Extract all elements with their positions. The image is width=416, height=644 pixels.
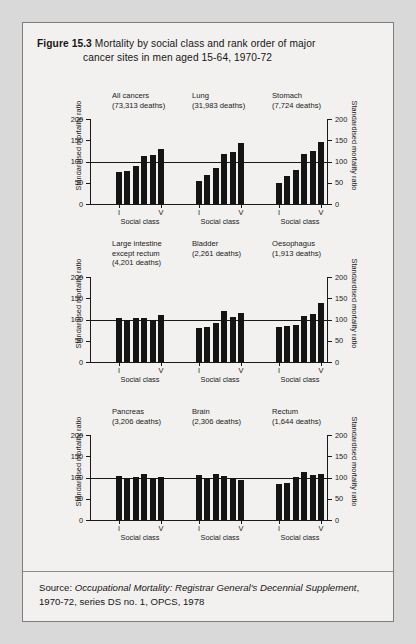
y-tick-right bbox=[328, 478, 332, 479]
panel-header: Lung(31,983 deaths) bbox=[192, 91, 266, 110]
bar bbox=[204, 175, 210, 204]
y-tick-label-left: 0 bbox=[57, 516, 83, 525]
bar-group bbox=[276, 277, 324, 362]
bar bbox=[318, 303, 324, 363]
bar bbox=[301, 472, 307, 520]
bar bbox=[116, 172, 122, 204]
bar bbox=[293, 170, 299, 204]
bar-group bbox=[196, 277, 244, 362]
bar bbox=[158, 477, 164, 520]
y-tick-right bbox=[328, 183, 332, 184]
x-axis-caption: Social class bbox=[183, 375, 257, 384]
bar-group bbox=[116, 119, 164, 204]
panel-header: Bladder(2,261 deaths) bbox=[192, 239, 266, 258]
bar bbox=[133, 166, 139, 204]
bar bbox=[213, 474, 219, 520]
bar bbox=[213, 168, 219, 204]
bar-group bbox=[196, 119, 244, 204]
panel-title: All cancers bbox=[112, 91, 186, 101]
panel-title: Brain bbox=[192, 407, 266, 417]
bar bbox=[230, 478, 236, 520]
bar-group bbox=[116, 277, 164, 362]
y-axis-label-right: Standardised mortality ratio bbox=[350, 256, 359, 352]
panel-deaths-count: (3,206 deaths) bbox=[112, 417, 186, 427]
figure-card: Figure 15.3 Mortality by social class an… bbox=[22, 22, 394, 622]
figure-title-line1: Mortality by social class and rank order… bbox=[95, 38, 316, 49]
y-tick-left bbox=[86, 341, 90, 342]
figure-page: Figure 15.3 Mortality by social class an… bbox=[0, 0, 416, 644]
y-tick-right bbox=[328, 362, 332, 363]
y-tick-label-left: 0 bbox=[57, 200, 83, 209]
y-tick-right bbox=[328, 499, 332, 500]
bar bbox=[230, 152, 236, 204]
bar bbox=[284, 176, 290, 204]
bar bbox=[141, 156, 147, 204]
bar-group bbox=[116, 435, 164, 520]
y-tick-right bbox=[328, 119, 332, 120]
x-axis-caption: Social class bbox=[263, 375, 337, 384]
bar bbox=[293, 477, 299, 520]
figure-caption: Figure 15.3 Mortality by social class an… bbox=[37, 37, 379, 65]
x-label-class-one: I bbox=[192, 208, 206, 217]
x-label-class-five: V bbox=[234, 208, 248, 217]
x-label-class-five: V bbox=[314, 366, 328, 375]
panel-deaths-count: (7,724 deaths) bbox=[272, 101, 346, 111]
x-label-class-one: I bbox=[112, 208, 126, 217]
plot-area-row-2: 005050100100150150200200Standardised mor… bbox=[90, 277, 328, 363]
chart-row-2: Large intestine except rectum(4,201 deat… bbox=[23, 237, 395, 389]
bar bbox=[301, 154, 307, 204]
plot-area-row-1: 005050100100150150200200Standardised mor… bbox=[90, 119, 328, 205]
y-tick-label-right: 0 bbox=[335, 200, 361, 209]
panel-title: Bladder bbox=[192, 239, 266, 249]
y-tick-right bbox=[328, 140, 332, 141]
figure-title-line2: cancer sites in men aged 15-64, 1970-72 bbox=[37, 51, 379, 65]
y-tick-left bbox=[86, 499, 90, 500]
x-axis-caption: Social class bbox=[103, 217, 177, 226]
bar bbox=[196, 181, 202, 204]
panel-deaths-count: (2,306 deaths) bbox=[192, 417, 266, 427]
panel-deaths-count: (2,261 deaths) bbox=[192, 249, 266, 259]
bar bbox=[284, 483, 290, 520]
panel-header: Brain(2,306 deaths) bbox=[192, 407, 266, 426]
bar bbox=[116, 318, 122, 362]
bar bbox=[150, 320, 156, 363]
y-axis-label-left: Standardised mortality ratio bbox=[74, 256, 83, 352]
x-label-class-one: I bbox=[112, 524, 126, 533]
figure-number: Figure 15.3 bbox=[37, 38, 92, 49]
bar bbox=[238, 143, 244, 204]
y-tick-right bbox=[328, 435, 332, 436]
bar bbox=[116, 476, 122, 520]
bar bbox=[133, 318, 139, 362]
panel-deaths-count: (4,201 deaths) bbox=[112, 258, 186, 268]
bar bbox=[196, 328, 202, 362]
bar bbox=[318, 142, 324, 204]
bar bbox=[310, 475, 316, 520]
bar bbox=[301, 316, 307, 362]
x-label-class-five: V bbox=[154, 524, 168, 533]
bar-group bbox=[276, 119, 324, 204]
y-axis-label-right: Standardised mortality ratio bbox=[350, 414, 359, 510]
plot-area-row-3: 005050100100150150200200Standardised mor… bbox=[90, 435, 328, 521]
x-axis-labels-row-3: IVSocial classIVSocial classIVSocial cla… bbox=[90, 521, 328, 545]
bar bbox=[124, 171, 130, 204]
y-tick-right bbox=[328, 277, 332, 278]
bar bbox=[150, 478, 156, 520]
x-label-class-one: I bbox=[272, 524, 286, 533]
panel-title: Oesophagus bbox=[272, 239, 346, 249]
bar bbox=[124, 320, 130, 363]
y-tick-right bbox=[328, 298, 332, 299]
bar bbox=[238, 480, 244, 520]
x-axis-caption: Social class bbox=[183, 533, 257, 542]
bar bbox=[204, 478, 210, 521]
chart-row-3: Pancreas(3,206 deaths)Brain(2,306 deaths… bbox=[23, 395, 395, 547]
source-divider bbox=[23, 571, 393, 572]
x-label-class-five: V bbox=[314, 208, 328, 217]
panel-header: All cancers(73,313 deaths) bbox=[112, 91, 186, 110]
x-label-class-one: I bbox=[192, 524, 206, 533]
y-tick-left bbox=[86, 140, 90, 141]
y-tick-left bbox=[86, 456, 90, 457]
y-tick-right bbox=[328, 341, 332, 342]
bar bbox=[318, 474, 324, 520]
y-tick-left bbox=[86, 435, 90, 436]
y-axis-label-left: Standardised mortality ratio bbox=[74, 98, 83, 194]
